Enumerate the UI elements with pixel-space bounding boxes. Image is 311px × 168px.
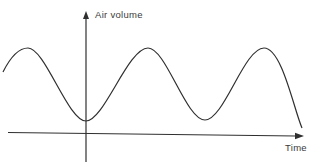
air-volume-curve: [3, 48, 302, 128]
y-axis-label: Air volume: [95, 9, 143, 20]
y-axis-arrow-icon: [83, 11, 89, 19]
air-volume-diagram: [0, 0, 311, 168]
x-axis-label: Time: [285, 142, 307, 153]
x-axis: [8, 133, 296, 137]
x-axis-arrow-icon: [295, 133, 304, 139]
